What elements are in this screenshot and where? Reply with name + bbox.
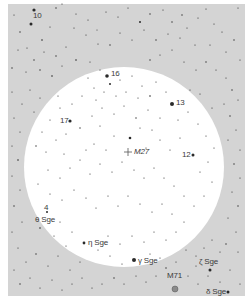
star <box>195 255 196 256</box>
star <box>205 8 206 9</box>
star <box>227 217 228 218</box>
star <box>153 231 154 232</box>
star <box>61 289 62 290</box>
label-16: 16 <box>111 70 120 78</box>
star <box>107 195 108 196</box>
star <box>173 185 174 186</box>
star <box>143 241 144 242</box>
star <box>141 85 142 86</box>
star <box>21 221 22 222</box>
star <box>103 91 104 92</box>
star <box>91 287 92 288</box>
star <box>63 153 64 154</box>
star <box>123 283 124 284</box>
star <box>231 89 232 90</box>
star <box>101 107 102 108</box>
star <box>155 81 156 82</box>
star <box>235 231 236 232</box>
star <box>30 23 33 26</box>
star <box>89 61 90 62</box>
star <box>199 171 200 172</box>
star <box>195 265 196 266</box>
star <box>59 177 60 178</box>
star <box>183 61 184 62</box>
star <box>239 149 240 150</box>
star <box>179 137 180 138</box>
star <box>81 95 82 96</box>
star <box>71 231 72 232</box>
star <box>213 147 214 148</box>
star <box>117 205 118 206</box>
star <box>65 245 66 246</box>
star <box>55 55 56 56</box>
star <box>239 283 240 284</box>
star <box>51 279 52 280</box>
star <box>215 69 216 70</box>
star <box>203 247 204 248</box>
star <box>87 19 88 20</box>
star <box>29 277 30 278</box>
star <box>49 26 50 27</box>
star <box>213 23 214 24</box>
star <box>73 189 74 190</box>
star <box>237 251 238 252</box>
star <box>149 59 150 60</box>
star <box>165 239 166 240</box>
star <box>199 93 200 94</box>
star <box>195 69 196 70</box>
star <box>73 27 74 28</box>
star <box>193 205 194 206</box>
label-m71: M71 <box>167 272 182 280</box>
star <box>93 143 94 144</box>
star <box>65 133 66 134</box>
star <box>47 169 48 170</box>
star <box>197 283 198 284</box>
label-10: 10 <box>33 12 42 20</box>
star <box>187 275 188 276</box>
star <box>61 199 62 200</box>
star <box>237 99 238 100</box>
star <box>225 243 226 244</box>
star <box>165 267 166 268</box>
star <box>133 169 134 170</box>
star <box>149 253 150 254</box>
star <box>169 149 170 150</box>
label-eta-sge: η Sge <box>88 239 108 247</box>
star <box>79 159 80 160</box>
star <box>237 7 238 8</box>
star <box>19 189 20 190</box>
star <box>161 203 162 204</box>
star <box>59 107 60 108</box>
star <box>25 261 26 262</box>
star <box>239 177 240 178</box>
star <box>131 75 132 76</box>
star <box>61 65 62 66</box>
star <box>109 83 111 85</box>
star <box>11 231 12 232</box>
star <box>211 107 212 108</box>
star <box>143 177 144 178</box>
star <box>71 283 72 284</box>
star <box>231 191 232 192</box>
star <box>113 113 114 114</box>
star <box>119 243 120 244</box>
star <box>41 39 43 41</box>
label-13: 13 <box>176 99 185 107</box>
star <box>211 181 212 182</box>
star <box>121 263 122 264</box>
star <box>209 269 212 272</box>
star <box>129 137 132 140</box>
star <box>45 151 46 152</box>
star <box>35 253 36 254</box>
star <box>13 117 14 118</box>
star <box>105 149 106 150</box>
star <box>197 17 198 18</box>
label-gamma-sge: γ Sge <box>138 257 157 265</box>
star <box>183 195 184 196</box>
star <box>147 109 148 110</box>
star <box>145 281 146 282</box>
star <box>159 139 160 140</box>
star <box>99 69 100 70</box>
star <box>205 61 206 62</box>
label-4: 4 <box>44 204 48 212</box>
